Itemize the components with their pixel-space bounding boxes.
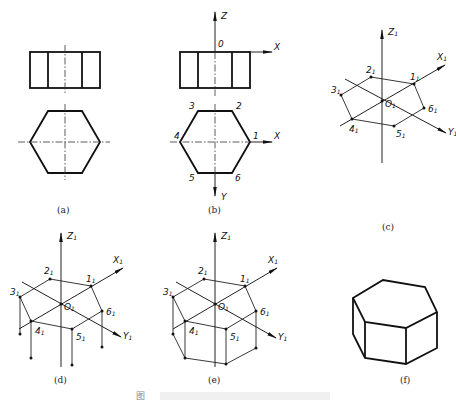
svg-text:Z1: Z1 (66, 231, 77, 241)
svg-text:41: 41 (189, 326, 199, 336)
svg-text:11: 11 (86, 274, 96, 284)
label-point-3: 3 (189, 101, 195, 111)
figure-caption: 图 (136, 391, 145, 400)
svg-text:21: 21 (366, 65, 376, 75)
svg-text:41: 41 (35, 326, 45, 336)
panel-c: Z1 X1 Y1 O1 11 21 31 41 51 61 (c) (331, 27, 456, 232)
svg-text:51: 51 (76, 332, 86, 342)
svg-text:21: 21 (198, 266, 208, 276)
label-point-4: 4 (174, 131, 180, 141)
caption-d: (d) (54, 375, 67, 385)
label-point-6: 6 (235, 173, 241, 183)
svg-text:11: 11 (410, 72, 420, 82)
caption-a: (a) (57, 205, 69, 215)
svg-text:Y1: Y1 (278, 332, 287, 342)
svg-text:X1: X1 (267, 255, 278, 265)
panel-a: (a) (18, 45, 110, 215)
hexagonal-prism-isometric-figure: (a) Z 0 X X Y 1 2 3 4 5 6 (b) (0, 0, 456, 400)
svg-text:O1: O1 (64, 302, 75, 312)
svg-text:Y1: Y1 (448, 127, 456, 137)
svg-text:61: 61 (428, 104, 438, 114)
label-point-1: 1 (253, 131, 259, 141)
panel-d: Z1 X1 Y1 O1 11 21 31 41 51 61 (d) (10, 231, 132, 385)
svg-text:Y1: Y1 (123, 331, 132, 341)
svg-text:31: 31 (163, 287, 173, 297)
svg-text:31: 31 (10, 287, 20, 297)
svg-text:Z1: Z1 (220, 231, 231, 241)
panel-b: Z 0 X X Y 1 2 3 4 5 6 (b) (170, 11, 281, 215)
panel-e: Z1 X1 Y1 O1 11 21 31 41 51 61 (e) (163, 231, 287, 385)
svg-text:41: 41 (349, 124, 359, 134)
panel-f: (f) (353, 280, 437, 385)
svg-text:61: 61 (260, 307, 270, 317)
label-x-top: X (273, 131, 281, 141)
caption-c: (c) (382, 222, 394, 232)
label-point-2: 2 (236, 101, 242, 111)
svg-text:X1: X1 (436, 52, 447, 62)
svg-text:O1: O1 (385, 99, 396, 109)
front-view (30, 45, 100, 95)
caption-f: (f) (400, 375, 410, 385)
svg-text:61: 61 (106, 307, 116, 317)
svg-text:31: 31 (331, 85, 341, 95)
svg-text:51: 51 (396, 129, 406, 139)
svg-text:21: 21 (44, 266, 54, 276)
label-origin: 0 (218, 39, 224, 49)
svg-text:O1: O1 (218, 302, 229, 312)
label-z: Z (220, 11, 228, 21)
label-y: Y (221, 192, 228, 202)
top-view-hexagon (18, 104, 110, 180)
label-x-front: X (273, 42, 281, 52)
svg-text:51: 51 (230, 332, 240, 342)
label-point-5: 5 (189, 173, 195, 183)
svg-text:11: 11 (240, 274, 250, 284)
svg-text:X1: X1 (112, 255, 123, 265)
caption-b: (b) (208, 205, 221, 215)
svg-text:Z1: Z1 (387, 27, 398, 37)
caption-e: (e) (208, 375, 220, 385)
figure-caption-faint-text (160, 392, 330, 400)
